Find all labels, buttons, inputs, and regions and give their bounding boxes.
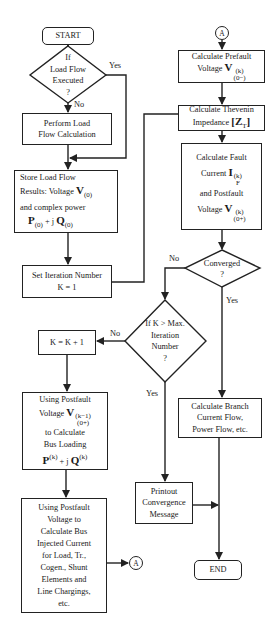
box-text: Calculate Thevenin (189, 104, 254, 116)
yes-label-load-flow: Yes (109, 61, 121, 71)
box-text: Convergence (142, 497, 186, 509)
prefault-voltage-box: Calculate Prefault Voltage V(k)(0−) (178, 50, 265, 83)
yes-label-converged: Yes (226, 296, 238, 306)
box-text: to Calculate (45, 427, 85, 439)
box-text: Store Load Flow (20, 172, 76, 185)
bus-loading-box: Using Postfault Voltage V(k−1)(0+) to Ca… (22, 392, 108, 470)
printout-convergence-box: Printout Convergence Message (135, 482, 193, 524)
store-load-flow-results-box: Store Load Flow Results: Voltage V(0) an… (14, 170, 118, 233)
box-text: Calculate Branch (191, 401, 248, 413)
no-label-max-iteration: No (110, 329, 120, 339)
box-text: etc. (58, 598, 70, 610)
perform-load-flow-box: Perform Load Flow Calculation (22, 113, 112, 145)
box-text: Results: Voltage V(0) (20, 184, 92, 202)
box-text: Message (149, 509, 178, 521)
decision-text: Load Flow (50, 64, 86, 76)
box-text: and complex power (20, 202, 85, 215)
fault-current-box: Calculate Fault Current I(k)F and Postfa… (181, 143, 262, 230)
box-text: Calculate Fault (196, 151, 246, 165)
box-text: Perform Load (44, 118, 90, 130)
connector-a-in: A (215, 26, 229, 40)
box-text: Line Chargings, (37, 586, 90, 598)
box-text: Current I(k)F (201, 165, 242, 187)
decision-text: Converged (204, 258, 240, 270)
decision-text: Executed (53, 75, 84, 87)
box-text: Elements and (42, 574, 87, 586)
decision-text: ? (220, 269, 224, 281)
increment-k-box: K = K + 1 (38, 330, 96, 355)
box-text: Voltage V(k−1)(0+) (39, 406, 91, 427)
decision-text: If K > Max. (145, 318, 185, 330)
box-text: Power Flow, etc. (192, 424, 248, 436)
bus-loading-formula: P(k) + j Q(k) (43, 451, 88, 468)
end-label: END (209, 564, 226, 576)
no-label-load-flow: No (74, 100, 84, 110)
box-text: for Load, Tr., (42, 550, 86, 562)
box-text: Voltage to (47, 514, 81, 526)
thevenin-impedance-box: Calculate Thevenin Impedance [ZT] (178, 105, 265, 131)
box-text: Calculate Bus (41, 526, 87, 538)
box-text: and Postfault (200, 187, 244, 201)
complex-power-formula: P(0) + j Q(0) (20, 214, 73, 232)
no-label-converged: No (169, 254, 179, 264)
box-text: Using Postfault (38, 502, 89, 514)
end-terminal: END (194, 560, 242, 580)
box-text: K = K + 1 (50, 337, 84, 349)
connector-label: A (133, 559, 138, 568)
decision-text: Number (151, 341, 178, 353)
decision-max-iteration: If K > Max. Iteration Number ? (135, 318, 195, 364)
box-text: Impedance [ZT] (193, 116, 250, 133)
decision-converged: Converged ? (195, 255, 249, 283)
start-terminal: START (42, 27, 94, 45)
box-text: Flow Calculation (38, 129, 95, 141)
decision-text: ? (66, 87, 70, 99)
box-text: Bus Loading (44, 439, 87, 451)
box-text: Voltage V(k)(0+) (197, 201, 245, 223)
set-iteration-number-box: Set Iteration Number K = 1 (22, 265, 112, 298)
box-text: Using Postfault (39, 394, 90, 406)
decision-load-flow-executed: If Load Flow Executed ? (36, 50, 100, 100)
connector-label: A (219, 29, 224, 38)
decision-text: If (65, 52, 71, 64)
box-text: Cogen., Shunt (40, 562, 87, 574)
connector-a-out: A (129, 556, 143, 570)
box-text: Printout (151, 486, 178, 498)
box-text: Set Iteration Number (32, 270, 102, 282)
bus-injected-current-box: Using Postfault Voltage to Calculate Bus… (21, 498, 107, 613)
yes-label-max-iteration: Yes (146, 389, 158, 399)
decision-text: Iteration (151, 330, 179, 342)
start-label: START (55, 30, 80, 42)
branch-flow-box: Calculate Branch Current Flow, Power Flo… (178, 398, 262, 438)
decision-text: ? (163, 353, 167, 365)
box-text: Current Flow, (197, 412, 243, 424)
box-text: Injected Current (37, 538, 91, 550)
box-text: Calculate Prefault (192, 51, 252, 63)
box-text: K = 1 (58, 282, 77, 294)
box-text: Voltage V(k)(0−) (197, 62, 245, 82)
